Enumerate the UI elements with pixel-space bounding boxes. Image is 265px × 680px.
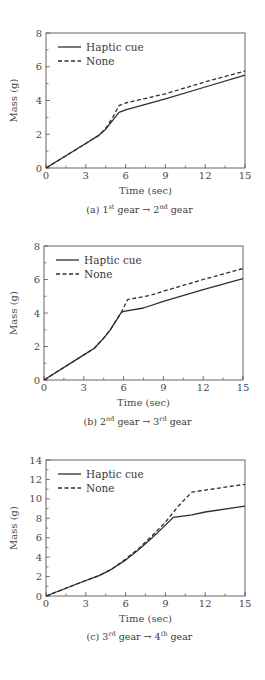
x-tick-label: 15 [239, 170, 252, 181]
series-line-none [46, 71, 245, 168]
figure: 0369121502468Time (sec)Mass (g)Haptic cu… [0, 0, 265, 680]
legend: Haptic cueNone [58, 41, 144, 67]
x-tick-label: 0 [43, 170, 49, 181]
x-tick-label: 15 [239, 598, 252, 609]
caption-text: gear [167, 631, 192, 642]
caption-text: (b) 2 [83, 416, 106, 427]
y-tick-label: 10 [29, 493, 42, 504]
chart-panel-a: 0369121502468Time (sec)Mass (g)Haptic cu… [8, 28, 251, 216]
x-tick-label: 0 [41, 382, 47, 393]
y-tick-label: 6 [34, 274, 40, 285]
plot-frame [46, 33, 245, 168]
y-axis-label: Mass (g) [8, 78, 19, 122]
figure-caption: (a) 1st gear → 2nd gear [86, 203, 193, 215]
series-line-none [46, 484, 245, 596]
caption-text: gear [167, 416, 192, 427]
plot-frame [46, 460, 245, 596]
figure-caption: (c) 3rd gear → 4th gear [87, 630, 193, 642]
y-tick-label: 8 [36, 513, 42, 524]
y-tick-label: 4 [34, 308, 40, 319]
caption-superscript: th [161, 630, 168, 638]
caption-superscript: rd [159, 415, 166, 423]
caption-text: (c) 3 [87, 631, 109, 642]
legend-label: Haptic cue [84, 254, 142, 266]
y-tick-label: 14 [29, 455, 42, 466]
chart-panel-c: 0369121502468101214Time (sec)Mass (g)Hap… [8, 455, 251, 643]
caption-superscript: nd [106, 415, 114, 423]
x-axis-label: Time (sec) [119, 613, 172, 624]
legend-label: None [86, 55, 115, 67]
caption-superscript: rd [108, 630, 115, 638]
y-tick-label: 2 [34, 341, 40, 352]
x-tick-label: 3 [83, 170, 89, 181]
x-tick-label: 9 [162, 170, 168, 181]
x-axis-label: Time (sec) [117, 397, 170, 408]
y-tick-label: 2 [36, 571, 42, 582]
series-line-haptic-cue [44, 279, 243, 380]
plot-frame [44, 246, 243, 380]
x-tick-label: 12 [199, 598, 212, 609]
x-tick-label: 9 [160, 382, 166, 393]
caption-text: gear [168, 204, 193, 215]
y-tick-label: 0 [36, 591, 42, 602]
legend-label: None [84, 268, 113, 280]
x-tick-label: 3 [83, 598, 89, 609]
x-tick-label: 9 [162, 598, 168, 609]
figure-caption: (b) 2nd gear → 3rd gear [83, 415, 192, 427]
y-tick-label: 4 [36, 552, 42, 563]
x-tick-label: 6 [122, 170, 128, 181]
y-tick-label: 2 [36, 129, 42, 140]
legend: Haptic cueNone [56, 254, 142, 280]
series-line-none [44, 269, 243, 380]
x-axis-label: Time (sec) [119, 185, 172, 196]
series-line-haptic-cue [46, 506, 245, 596]
x-tick-label: 3 [81, 382, 87, 393]
y-tick-label: 4 [36, 95, 42, 106]
caption-text: gear → 2 [114, 204, 159, 215]
legend-label: Haptic cue [86, 41, 144, 53]
y-tick-label: 0 [36, 163, 42, 174]
x-tick-label: 12 [197, 382, 210, 393]
legend-label: Haptic cue [86, 468, 144, 480]
x-tick-label: 0 [43, 598, 49, 609]
x-tick-label: 15 [237, 382, 250, 393]
caption-superscript: nd [159, 203, 167, 211]
y-tick-label: 8 [34, 241, 40, 252]
series-line-haptic-cue [46, 75, 245, 168]
caption-text: gear → 4 [116, 631, 161, 642]
y-tick-label: 8 [36, 28, 42, 39]
x-tick-label: 12 [199, 170, 212, 181]
x-tick-label: 6 [122, 598, 128, 609]
y-tick-label: 0 [34, 375, 40, 386]
y-axis-label: Mass (g) [8, 291, 19, 335]
caption-text: (a) 1 [86, 204, 108, 215]
y-tick-label: 6 [36, 532, 42, 543]
legend-label: None [86, 482, 115, 494]
legend: Haptic cueNone [58, 468, 144, 494]
y-tick-label: 12 [29, 474, 42, 485]
caption-text: gear → 3 [114, 416, 159, 427]
y-tick-label: 6 [36, 61, 42, 72]
chart-panel-b: 0369121502468Time (sec)Mass (g)Haptic cu… [8, 241, 249, 428]
y-axis-label: Mass (g) [8, 506, 19, 550]
x-tick-label: 6 [120, 382, 126, 393]
